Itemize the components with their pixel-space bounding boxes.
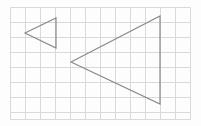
geometry-figure (0, 0, 201, 126)
figure-canvas: Two nested left-pointing triangles on a … (0, 0, 201, 126)
